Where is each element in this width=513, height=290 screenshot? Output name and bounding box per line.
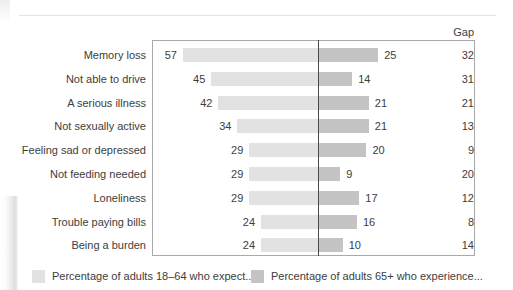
diverging-bar-chart: Gap Memory loss572532Not able to drive45…	[0, 0, 513, 290]
chart-row: Trouble paying bills24168	[0, 210, 513, 234]
value-gap: 13	[432, 114, 474, 138]
category-label: A serious illness	[10, 91, 146, 115]
category-label: Being a burden	[10, 233, 146, 257]
value-left-expect: 24	[213, 233, 255, 257]
value-left-expect: 29	[201, 138, 243, 162]
chart-row: Not feeding needed29920	[0, 162, 513, 186]
legend-swatch-experience	[251, 270, 264, 283]
value-right-experience: 14	[358, 67, 400, 91]
chart-row: Being a burden241014	[0, 233, 513, 257]
legend-item[interactable]: Percentage of adults 18–64 who expect...	[32, 266, 254, 286]
bar-right-experience	[319, 215, 357, 229]
bar-left-expect	[261, 238, 318, 252]
value-right-experience: 10	[349, 233, 391, 257]
chart-row: Memory loss572532	[0, 43, 513, 67]
category-label: Memory loss	[10, 43, 146, 67]
legend-label: Percentage of adults 65+ who experience.…	[271, 270, 483, 282]
value-left-expect: 34	[189, 114, 231, 138]
bar-left-expect	[249, 143, 318, 157]
value-gap: 14	[432, 233, 474, 257]
chart-row: Feeling sad or depressed29209	[0, 138, 513, 162]
category-label: Feeling sad or depressed	[10, 138, 146, 162]
value-left-expect: 29	[201, 162, 243, 186]
legend-label: Percentage of adults 18–64 who expect...	[52, 270, 254, 282]
chart-legend: Percentage of adults 18–64 who expect...…	[19, 266, 496, 286]
bar-left-expect	[237, 119, 318, 133]
gap-column-header: Gap	[432, 26, 474, 38]
bar-right-experience	[319, 119, 369, 133]
value-left-expect: 45	[163, 67, 205, 91]
value-gap: 9	[432, 138, 474, 162]
value-gap: 12	[432, 186, 474, 210]
category-label: Not feeding needed	[10, 162, 146, 186]
value-left-expect: 57	[135, 43, 177, 67]
bar-left-expect	[249, 191, 318, 205]
bar-left-expect	[211, 72, 318, 86]
bar-right-experience	[319, 191, 359, 205]
value-gap: 32	[432, 43, 474, 67]
bar-left-expect	[249, 167, 318, 181]
chart-row: A serious illness422121	[0, 91, 513, 115]
chart-row: Not sexually active342113	[0, 114, 513, 138]
bar-right-experience	[319, 143, 366, 157]
value-right-experience: 21	[375, 91, 417, 115]
bar-right-experience	[319, 72, 352, 86]
category-label: Trouble paying bills	[10, 210, 146, 234]
legend-swatch-expect	[32, 270, 45, 283]
bar-right-experience	[319, 238, 343, 252]
legend-item[interactable]: Percentage of adults 65+ who experience.…	[251, 266, 483, 286]
chart-row: Not able to drive451431	[0, 67, 513, 91]
bar-left-expect	[183, 48, 318, 62]
bar-right-experience	[319, 167, 340, 181]
value-right-experience: 16	[363, 210, 405, 234]
category-label: Loneliness	[10, 186, 146, 210]
value-right-experience: 21	[375, 114, 417, 138]
chart-row: Loneliness291712	[0, 186, 513, 210]
bar-right-experience	[319, 48, 378, 62]
value-left-expect: 42	[170, 91, 212, 115]
value-gap: 21	[432, 91, 474, 115]
value-gap: 20	[432, 162, 474, 186]
value-left-expect: 29	[201, 186, 243, 210]
value-right-experience: 25	[384, 43, 426, 67]
value-right-experience: 9	[346, 162, 388, 186]
value-right-experience: 17	[365, 186, 407, 210]
category-label: Not able to drive	[10, 67, 146, 91]
value-left-expect: 24	[213, 210, 255, 234]
value-gap: 8	[432, 210, 474, 234]
bar-right-experience	[319, 96, 369, 110]
value-gap: 31	[432, 67, 474, 91]
category-label: Not sexually active	[10, 114, 146, 138]
bar-left-expect	[261, 215, 318, 229]
value-right-experience: 20	[372, 138, 414, 162]
bar-left-expect	[218, 96, 318, 110]
